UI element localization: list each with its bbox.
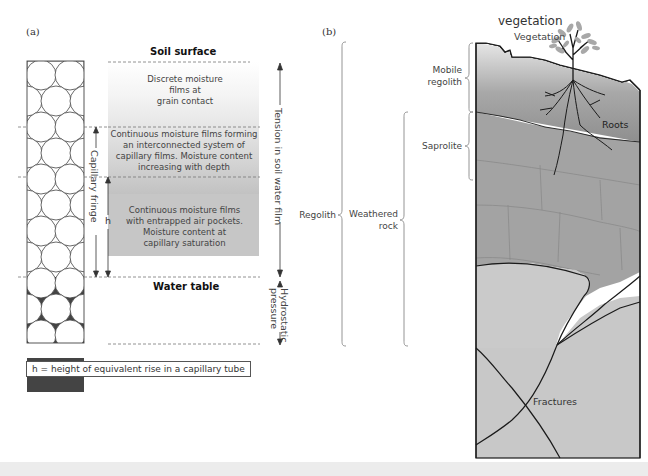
weathered-rock-label: Weathered rock <box>340 208 398 232</box>
fractures-label: Fractures <box>533 396 577 407</box>
bottom-strip <box>0 462 648 476</box>
regolith-label: Regolith <box>290 209 336 221</box>
vegetation-label: Vegetation <box>514 31 565 42</box>
vegetation-heading: vegetation <box>498 14 563 28</box>
roots-label: Roots <box>602 119 628 130</box>
saprolite-label: Saprolite <box>412 140 462 152</box>
mobile-regolith-label: Mobile regolith <box>420 64 462 88</box>
